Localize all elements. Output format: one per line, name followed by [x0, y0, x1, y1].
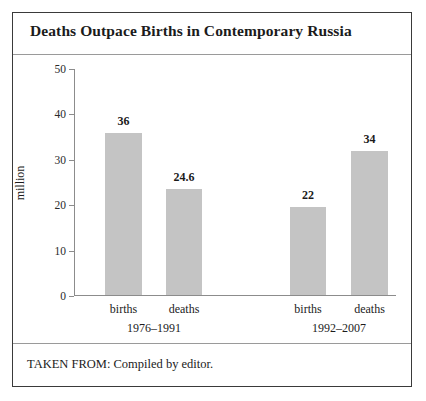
bar-value-label: 24.6 [174, 170, 195, 185]
x-group-label-1992-2007: 1992–2007 [312, 321, 366, 336]
bar-births-1992-2007: 22 [290, 207, 326, 295]
y-tick-mark-40 [69, 114, 74, 115]
y-tick-label-50: 50 [36, 63, 66, 75]
y-tick-label-10: 10 [36, 245, 66, 257]
y-axis-line [74, 69, 75, 296]
bar-deaths-1976-1991: 24.6 [166, 189, 202, 295]
bar-births-1976-1991: 36 [105, 133, 142, 295]
x-label-births-1992-2007: births [294, 302, 321, 317]
y-tick-label-30: 30 [36, 154, 66, 166]
y-axis-label: million [13, 165, 28, 200]
source-note: TAKEN FROM: Compiled by editor. [27, 357, 213, 372]
bar-value-label: 34 [364, 132, 376, 147]
title-divider [13, 54, 411, 55]
x-label-deaths-1992-2007: deaths [354, 302, 385, 317]
y-tick-mark-0 [69, 296, 74, 297]
chart-figure: Deaths Outpace Births in Contemporary Ru… [12, 12, 412, 387]
y-tick-mark-30 [69, 160, 74, 161]
x-axis-line [74, 295, 396, 296]
title-area: Deaths Outpace Births in Contemporary Ru… [13, 13, 411, 55]
y-tick-label-20: 20 [36, 199, 66, 211]
y-tick-label-40: 40 [36, 108, 66, 120]
plot-area: million 50 40 30 20 10 0 36 24.6 22 34 b… [74, 69, 396, 296]
x-group-label-1976-1991: 1976–1991 [127, 321, 181, 336]
y-tick-mark-50 [69, 69, 74, 70]
y-tick-mark-20 [69, 205, 74, 206]
bar-value-label: 22 [302, 188, 314, 203]
chart-title: Deaths Outpace Births in Contemporary Ru… [30, 22, 352, 40]
footer-divider [13, 343, 411, 344]
bar-deaths-1992-2007: 34 [351, 151, 388, 295]
x-label-deaths-1976-1991: deaths [169, 302, 200, 317]
y-tick-label-0: 0 [36, 290, 66, 302]
y-tick-mark-10 [69, 251, 74, 252]
bar-value-label: 36 [118, 114, 130, 129]
x-label-births-1976-1991: births [110, 302, 137, 317]
